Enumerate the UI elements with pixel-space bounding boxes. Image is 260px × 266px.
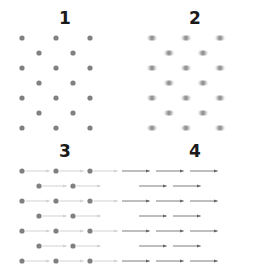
lattice-point xyxy=(70,80,75,85)
lattice-point xyxy=(87,198,92,203)
lattice-point xyxy=(166,80,172,86)
lattice-point xyxy=(217,95,223,101)
lattice-point xyxy=(19,228,24,233)
lattice-point xyxy=(53,125,58,130)
panel-3-plot xyxy=(0,159,130,266)
lattice-point xyxy=(19,258,24,263)
lattice-point xyxy=(53,198,58,203)
panel-1-label: 1 xyxy=(0,8,130,28)
panel-4-canvas xyxy=(130,159,260,266)
panel-3-canvas xyxy=(0,159,130,266)
lattice-point xyxy=(149,125,155,131)
lattice-point xyxy=(200,80,206,86)
lattice-point xyxy=(53,65,58,70)
lattice-point xyxy=(70,213,75,218)
lattice-point xyxy=(53,95,58,100)
panel-2: 2 xyxy=(130,0,260,133)
lattice-point xyxy=(36,50,41,55)
lattice-point xyxy=(70,110,75,115)
lattice-point xyxy=(217,35,223,41)
panel-2-canvas xyxy=(130,26,260,133)
lattice-point xyxy=(53,228,58,233)
lattice-point xyxy=(36,110,41,115)
dot-layer xyxy=(19,35,92,130)
lattice-point xyxy=(70,243,75,248)
lattice-point xyxy=(87,168,92,173)
panel-4-label: 4 xyxy=(130,141,260,161)
lattice-point xyxy=(53,258,58,263)
lattice-point xyxy=(200,50,206,56)
panel-1: 1 xyxy=(0,0,130,133)
lattice-point xyxy=(87,125,92,130)
panel-4: 4 xyxy=(130,133,260,266)
lattice-point xyxy=(87,228,92,233)
lattice-point xyxy=(183,95,189,101)
figure-root: 1 2 3 4 xyxy=(0,0,260,266)
lattice-point xyxy=(149,35,155,41)
lattice-point xyxy=(200,110,206,116)
lattice-point xyxy=(19,65,24,70)
lattice-point xyxy=(217,65,223,71)
lattice-point xyxy=(36,243,41,248)
lattice-point xyxy=(149,95,155,101)
lattice-point xyxy=(149,65,155,71)
panel-3-label: 3 xyxy=(0,141,130,161)
panel-1-plot xyxy=(0,26,130,133)
lattice-point xyxy=(87,258,92,263)
lattice-point xyxy=(19,198,24,203)
lattice-point xyxy=(19,168,24,173)
lattice-point xyxy=(166,50,172,56)
lattice-point xyxy=(217,125,223,131)
lattice-point xyxy=(183,35,189,41)
panel-1-canvas xyxy=(0,26,130,133)
lattice-point xyxy=(36,183,41,188)
lattice-point xyxy=(70,183,75,188)
lattice-point xyxy=(19,125,24,130)
lattice-point xyxy=(19,35,24,40)
lattice-point xyxy=(36,80,41,85)
dot-layer xyxy=(149,35,223,131)
panel-3: 3 xyxy=(0,133,130,266)
lattice-point xyxy=(183,125,189,131)
lattice-point xyxy=(53,35,58,40)
panel-4-plot xyxy=(130,159,260,266)
lattice-point xyxy=(166,110,172,116)
lattice-point xyxy=(36,213,41,218)
arrow-layer xyxy=(122,171,218,261)
lattice-point xyxy=(87,95,92,100)
panel-2-label: 2 xyxy=(130,8,260,28)
lattice-point xyxy=(183,65,189,71)
lattice-point xyxy=(87,65,92,70)
lattice-point xyxy=(53,168,58,173)
lattice-point xyxy=(19,95,24,100)
panel-2-plot xyxy=(130,26,260,133)
lattice-point xyxy=(87,35,92,40)
lattice-point xyxy=(70,50,75,55)
